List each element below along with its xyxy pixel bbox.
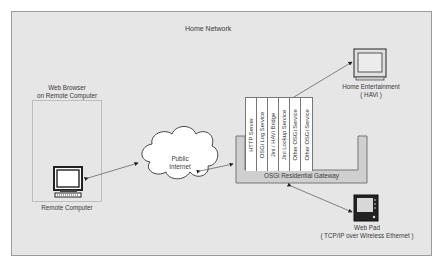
web-pad-icon xyxy=(354,195,378,221)
gateway-label: OSGi Residential Gateway xyxy=(245,172,358,180)
entertainment-label-line2: ( HAVi ) xyxy=(335,91,407,99)
service-other-osgi-2: Other OSGi Service xyxy=(301,98,313,171)
entertainment-label-line1: Home Entertainment xyxy=(335,83,407,91)
service-jini-havi-bridge: Jini / HAVi Bridge xyxy=(268,98,279,171)
service-osgi-log: OSGi Log Service xyxy=(257,98,268,171)
service-other-osgi-1: Other OSGi Service xyxy=(290,98,301,171)
home-entertainment-tv-icon xyxy=(354,49,386,80)
gateway-services: HTTP Server OSGi Log Service Jini / HAVi… xyxy=(245,97,313,170)
link-gateway-webpad xyxy=(291,186,352,212)
webpad-label-line2: ( TCP/IP over Wireless Ethernet ) xyxy=(310,232,424,240)
service-jini-lookup: Jini Lookup Service xyxy=(279,98,290,171)
internet-label-line2: Internet xyxy=(160,163,200,171)
service-http-server: HTTP Server xyxy=(246,98,257,171)
internet-label-line1: Public xyxy=(160,155,200,163)
remote-computer-label: Remote Computer xyxy=(36,204,98,212)
webpad-label-line1: Web Pad xyxy=(330,224,404,232)
remote-computer-icon xyxy=(54,167,82,197)
link-remote-internet xyxy=(88,163,138,178)
